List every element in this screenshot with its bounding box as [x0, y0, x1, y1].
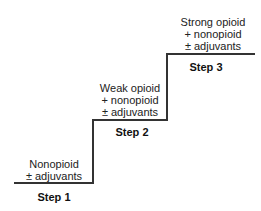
step-1-label: Step 1 — [14, 191, 94, 203]
step-3-line-2: + nonopioid — [168, 28, 258, 40]
step-2-label: Step 2 — [94, 126, 170, 138]
step-3-description: Strong opioid + nonopioid ± adjuvants — [168, 16, 258, 52]
step-3-label: Step 3 — [168, 61, 244, 73]
step-1-line-2: ± adjuvants — [14, 170, 94, 182]
step-2-description: Weak opioid + nonopioid ± adjuvants — [92, 82, 168, 118]
step-1-line-1: Nonopioid — [14, 158, 94, 170]
step-1-description: Nonopioid ± adjuvants — [14, 158, 94, 182]
step-3-line-1: Strong opioid — [168, 16, 258, 28]
step-3-line-3: ± adjuvants — [168, 40, 258, 52]
step-2-line-3: ± adjuvants — [92, 106, 168, 118]
step-2-line-2: + nonopioid — [92, 94, 168, 106]
step-2-line-1: Weak opioid — [92, 82, 168, 94]
